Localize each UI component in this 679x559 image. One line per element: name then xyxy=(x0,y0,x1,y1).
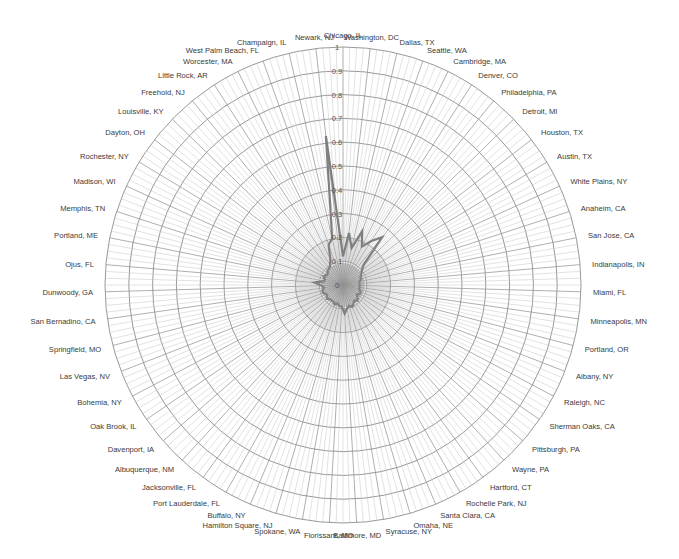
grid-spoke xyxy=(350,59,416,263)
grid-spoke xyxy=(117,292,321,358)
grid-spoke xyxy=(203,285,343,478)
grid-spoke xyxy=(350,308,416,512)
category-label: Portland, OR xyxy=(585,345,629,354)
radar-chart: 00.10.20.30.40.50.60.70.80.91 Chicago, I… xyxy=(0,0,679,559)
grid-spoke xyxy=(108,244,319,281)
category-label: Washington, DC xyxy=(344,33,400,42)
grid-spoke xyxy=(159,300,325,436)
grid-spoke xyxy=(105,271,319,283)
grid-spoke xyxy=(353,307,442,502)
grid-spoke xyxy=(119,205,321,277)
category-label: Houston, TX xyxy=(541,128,583,137)
grid-spoke xyxy=(250,285,343,504)
category-label: Rochester, NY xyxy=(80,152,129,161)
category-label: Louisville, KY xyxy=(118,107,164,116)
category-label: Albuquerque, NM xyxy=(115,465,174,474)
grid-spoke xyxy=(355,81,466,264)
category-label: Ojus, FL xyxy=(65,260,94,269)
category-label: Champaign, IL xyxy=(237,38,286,47)
category-label: Oak Brook, IL xyxy=(90,422,136,431)
axis-tick-label: 0.3 xyxy=(332,210,343,219)
category-label: Pittsburgh, PA xyxy=(532,445,581,454)
category-label: White Plains, NY xyxy=(570,177,627,186)
category-label: Detroit, MI xyxy=(522,107,557,116)
category-label: Little Rock, AR xyxy=(158,71,208,80)
axis-tick-label: 0 xyxy=(335,281,339,290)
category-label: Madison, WI xyxy=(73,177,115,186)
grid-spoke xyxy=(203,92,329,265)
grid-spoke xyxy=(269,59,335,263)
grid-spoke xyxy=(220,305,331,488)
category-label: Wayne, PA xyxy=(512,465,550,474)
grid-spoke xyxy=(362,145,535,271)
grid-spoke xyxy=(353,69,442,264)
axis-tick-label: 0.5 xyxy=(332,162,343,171)
grid-spoke xyxy=(362,299,535,425)
grid-spoke xyxy=(105,286,319,298)
grid-spoke xyxy=(150,145,323,271)
grid-spoke xyxy=(343,285,483,478)
grid-spoke xyxy=(359,110,504,268)
category-label: Port Lauderdale, FL xyxy=(153,499,220,508)
category-label: Davenport, IA xyxy=(108,445,155,454)
category-label: Memphis, TN xyxy=(60,204,105,213)
grid-spoke xyxy=(139,297,322,408)
grid-spoke xyxy=(269,308,335,512)
axis-tick-label: 0.1 xyxy=(332,257,343,266)
grid-spoke xyxy=(365,293,567,365)
grid-spoke xyxy=(344,47,350,261)
category-label: Albany, NY xyxy=(576,372,613,381)
category-label: Freehold, NJ xyxy=(141,88,185,97)
grid-spoke xyxy=(108,289,319,326)
category-label: Florissant, MO xyxy=(304,531,353,540)
grid-spoke xyxy=(105,278,319,284)
grid-spoke xyxy=(365,205,567,277)
category-label: Santa Clara, CA xyxy=(440,511,496,520)
category-label: Buffalo, NY xyxy=(207,511,245,520)
category-label: Indianapolis, IN xyxy=(592,260,644,269)
category-label: Bohemia, NY xyxy=(77,398,122,407)
category-label: Austin, TX xyxy=(557,152,592,161)
category-label: West Palm Beach, FL xyxy=(186,46,259,55)
category-label: Cambridge, MA xyxy=(453,57,507,66)
category-label: Springfield, MO xyxy=(49,345,101,354)
axis-tick-label: 0.9 xyxy=(332,67,343,76)
grid-spoke xyxy=(119,293,321,365)
grid-spoke xyxy=(343,285,436,504)
grid-spoke xyxy=(127,295,322,384)
grid-spoke xyxy=(366,289,577,326)
grid-spoke xyxy=(168,124,326,269)
category-label: Dayton, OH xyxy=(105,128,145,137)
category-label: Seattle, WA xyxy=(427,46,468,55)
grid-spoke xyxy=(355,305,466,488)
category-label: Worcester, MA xyxy=(183,57,234,66)
category-label: Denver, CO xyxy=(478,71,518,80)
grid-spoke xyxy=(361,134,527,270)
grid-spoke xyxy=(363,297,546,408)
axis-tick-label: 0.6 xyxy=(332,138,343,147)
grid-spoke xyxy=(336,309,342,523)
grid-spoke xyxy=(244,307,333,502)
category-label: Raleigh, NC xyxy=(564,398,605,407)
category-label: San Jose, CA xyxy=(588,231,635,240)
category-label: Anaheim, CA xyxy=(581,204,627,213)
category-label: San Bernadino, CA xyxy=(30,317,96,326)
grid-spoke xyxy=(367,278,581,284)
category-label: Dunwoody, GA xyxy=(43,288,94,297)
grid-spoke xyxy=(367,271,581,283)
category-label: Hamilton Square, NJ xyxy=(203,521,273,530)
category-label: Syracuse, NY xyxy=(386,527,432,536)
grid-spoke xyxy=(367,286,581,298)
axis-tick-label: 0.8 xyxy=(332,91,343,100)
grid-spoke xyxy=(159,134,325,270)
grid-spoke xyxy=(344,47,356,261)
category-label: Hartford, CT xyxy=(490,483,532,492)
grid-spoke xyxy=(244,69,333,264)
grid-spoke xyxy=(365,295,560,384)
axis-tick-label: 0.4 xyxy=(332,186,343,195)
category-label: Portland, ME xyxy=(54,231,98,240)
category-label: Philadelphia, PA xyxy=(501,88,557,97)
category-label: Sherman Oaks, CA xyxy=(549,422,615,431)
axis-tick-label: 1 xyxy=(335,43,339,52)
category-label: Newark, NJ xyxy=(295,33,334,42)
